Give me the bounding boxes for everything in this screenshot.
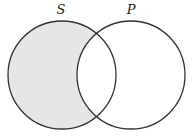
shaded-region-s-only [0, 0, 193, 136]
venn-diagram: S P [0, 0, 193, 136]
label-p: P [126, 2, 136, 17]
label-s: S [57, 2, 66, 17]
